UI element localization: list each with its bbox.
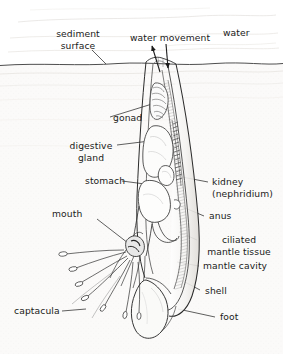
kidney-line2: (nephridium) <box>212 188 273 199</box>
label-mantle-cavity: mantle cavity <box>203 260 267 272</box>
sediment-surface-line2: surface <box>61 40 96 51</box>
kidney-line1: kidney <box>212 176 243 187</box>
label-water-movement: water movement <box>130 32 210 44</box>
label-stomach: stomach <box>85 175 125 187</box>
ciliated-line2: mantle tissue <box>207 246 271 257</box>
kidney-organ <box>158 166 174 186</box>
anatomy-figure: sediment surface water movement water go… <box>0 0 283 354</box>
sediment-surface-line1: sediment <box>56 28 100 39</box>
digestive-gland-line1: digestive <box>70 140 113 151</box>
label-water: water <box>223 27 250 39</box>
label-captacula: captacula <box>14 305 60 317</box>
digestive-gland-line2: gland <box>78 152 104 163</box>
label-mouth: mouth <box>52 208 82 220</box>
ciliated-line1: ciliated <box>222 234 256 245</box>
label-sediment-surface: sediment surface <box>42 28 114 51</box>
label-kidney: kidney (nephridium) <box>212 176 273 199</box>
label-digestive-gland: digestive gland <box>62 140 120 163</box>
label-gonad: gonad <box>113 112 142 124</box>
label-anus: anus <box>209 210 231 222</box>
label-foot: foot <box>220 311 238 323</box>
anus-opening <box>174 200 180 209</box>
label-ciliated-mantle-tissue: ciliated mantle tissue <box>199 234 279 257</box>
label-shell: shell <box>205 285 227 297</box>
